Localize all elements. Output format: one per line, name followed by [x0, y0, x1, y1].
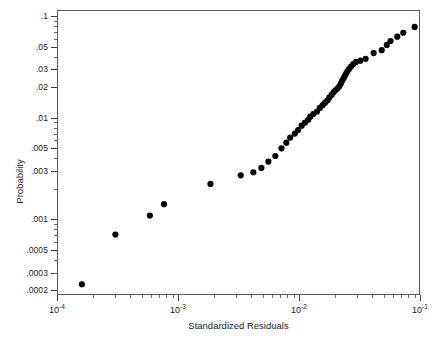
x-axis-tick-base: 10 — [291, 305, 301, 315]
x-axis-minor-tick — [294, 295, 295, 298]
y-axis-tick-label: .05 — [36, 42, 48, 51]
data-point — [287, 134, 293, 140]
x-axis-tick-exponent: -3 — [180, 303, 186, 310]
x-axis-tick-base: 10 — [412, 305, 422, 315]
y-axis-tick-label: .02 — [36, 83, 48, 92]
y-axis-title: Probability — [14, 137, 25, 227]
x-axis-minor-tick — [335, 295, 336, 298]
x-axis-minor-tick — [214, 295, 215, 298]
data-point — [379, 47, 385, 53]
y-axis: .1.05.03.02.01.005.003.001.0005.0003.000… — [0, 10, 57, 295]
data-point — [112, 231, 118, 237]
data-point — [238, 172, 244, 178]
data-point — [161, 201, 167, 207]
x-axis-tick-base: 10 — [170, 305, 180, 315]
y-axis-tick-label: .005 — [31, 144, 48, 153]
x-axis-tick-label: 10-4 — [49, 303, 65, 315]
x-axis-tick-label: 10-2 — [291, 303, 307, 315]
plot-area — [57, 10, 420, 295]
y-axis-tick-label: .0003 — [26, 268, 48, 277]
x-axis-tick-base: 10 — [49, 305, 59, 315]
x-axis-minor-tick — [173, 295, 174, 298]
data-point — [371, 50, 377, 56]
x-axis-minor-tick — [130, 295, 131, 298]
y-axis-tick-label: .0005 — [26, 246, 48, 255]
x-axis-minor-tick — [401, 295, 402, 298]
x-axis-minor-tick — [393, 295, 394, 298]
x-axis-tick — [57, 295, 58, 301]
data-point — [283, 140, 289, 146]
y-axis-tick-label: .03 — [36, 65, 48, 74]
data-point — [258, 165, 264, 171]
x-axis-tick-exponent: -2 — [301, 303, 307, 310]
data-point — [278, 145, 284, 151]
x-axis-minor-tick — [159, 295, 160, 298]
probability-plot-figure: .1.05.03.02.01.005.003.001.0005.0003.000… — [0, 0, 439, 339]
x-axis-minor-tick — [280, 295, 281, 298]
data-point — [387, 38, 393, 44]
x-axis-minor-tick — [272, 295, 273, 298]
data-point — [265, 158, 271, 164]
x-axis-minor-tick — [287, 295, 288, 298]
x-axis — [57, 295, 420, 305]
y-axis-tick-label: .0002 — [26, 286, 48, 295]
x-axis-minor-tick — [236, 295, 237, 298]
x-axis-minor-tick — [408, 295, 409, 298]
data-point — [79, 281, 85, 287]
x-axis-minor-tick — [166, 295, 167, 298]
x-axis-minor-tick — [415, 295, 416, 298]
x-axis-tick-exponent: -1 — [422, 303, 428, 310]
data-point — [400, 30, 406, 36]
data-point — [207, 181, 213, 187]
y-axis-tick-label: .001 — [31, 215, 48, 224]
x-axis-tick — [420, 295, 421, 301]
x-axis-minor-tick — [384, 295, 385, 298]
scatter-points-layer — [58, 11, 419, 294]
x-axis-minor-tick — [93, 295, 94, 298]
y-axis-tick-label: .01 — [36, 114, 48, 123]
x-axis-minor-tick — [115, 295, 116, 298]
x-axis-minor-tick — [251, 295, 252, 298]
x-axis-tick — [178, 295, 179, 301]
y-axis-tick-label: .1 — [41, 12, 48, 21]
x-axis-minor-tick — [372, 295, 373, 298]
y-axis-tick-label: .003 — [31, 167, 48, 176]
x-axis-tick-label: 10-3 — [170, 303, 186, 315]
data-point — [147, 212, 153, 218]
x-axis-title: Standardized Residuals — [57, 320, 420, 331]
x-axis-minor-tick — [151, 295, 152, 298]
x-axis-tick-label: 10-1 — [412, 303, 428, 315]
x-axis-tick-exponent: -4 — [59, 303, 65, 310]
data-point — [250, 169, 256, 175]
data-point — [272, 153, 278, 159]
data-point — [363, 56, 369, 62]
x-axis-minor-tick — [263, 295, 264, 298]
data-point — [412, 24, 418, 30]
x-axis-minor-tick — [357, 295, 358, 298]
x-axis-minor-tick — [142, 295, 143, 298]
x-axis-tick — [299, 295, 300, 301]
data-point — [394, 34, 400, 40]
